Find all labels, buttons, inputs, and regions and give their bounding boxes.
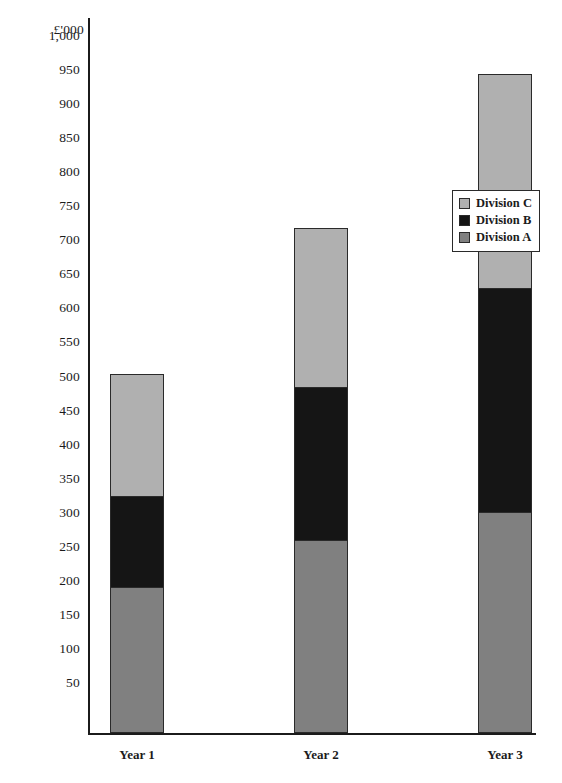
legend-swatch-icon [459, 215, 470, 226]
y-axis-tick-label: 200 [59, 573, 80, 589]
bar-group: Year 1 [110, 374, 164, 733]
legend-swatch-icon [459, 198, 470, 209]
y-axis-tick-label: 250 [59, 539, 80, 555]
bar-segment-division-a[interactable] [110, 587, 164, 733]
stacked-bar-chart: £'000 1,00095090085080075070065060055050… [0, 0, 562, 783]
y-axis-tick-label: 400 [59, 437, 80, 453]
y-axis-tick-label: 650 [59, 266, 80, 282]
chart-legend: Division CDivision BDivision A [452, 190, 540, 252]
bar-segment-division-a[interactable] [294, 540, 348, 733]
bar-segment-division-b[interactable] [478, 288, 532, 513]
y-axis-tick-label: 750 [59, 198, 80, 214]
bar-group: Year 3 [478, 74, 532, 733]
y-axis-tick-label: 300 [59, 505, 80, 521]
y-axis-tick-label: 600 [59, 300, 80, 316]
plot-area: 1,00095090085080075070065060055050045040… [88, 18, 536, 735]
y-axis-tick-label: 550 [59, 334, 80, 350]
bar-stack[interactable] [294, 228, 348, 733]
y-axis-tick-label: 900 [59, 96, 80, 112]
x-axis-tick-label: Year 1 [119, 747, 155, 763]
y-axis-tick-label: 50 [66, 675, 80, 691]
y-axis-tick-label: 700 [59, 232, 80, 248]
bar-group: Year 2 [294, 228, 348, 733]
x-axis-line [88, 733, 536, 735]
legend-swatch-icon [459, 232, 470, 243]
legend-label: Division C [476, 196, 532, 211]
y-axis-line [88, 18, 90, 735]
legend-item[interactable]: Division A [459, 229, 532, 246]
legend-label: Division B [476, 213, 531, 228]
legend-item[interactable]: Division B [459, 212, 532, 229]
x-axis-tick-label: Year 2 [303, 747, 339, 763]
y-axis-tick-label: 950 [59, 62, 80, 78]
bar-segment-division-c[interactable] [294, 228, 348, 388]
y-axis-tick-label: 450 [59, 403, 80, 419]
bar-segment-division-c[interactable] [110, 374, 164, 497]
y-axis-tick-label: 1,000 [49, 28, 80, 44]
bar-segment-division-a[interactable] [478, 512, 532, 733]
y-axis-tick-label: 500 [59, 369, 80, 385]
bar-stack[interactable] [110, 374, 164, 733]
y-axis-tick-label: 850 [59, 130, 80, 146]
y-axis-tick-label: 350 [59, 471, 80, 487]
legend-label: Division A [476, 230, 531, 245]
x-axis-tick-label: Year 3 [487, 747, 523, 763]
y-axis-tick-label: 100 [59, 641, 80, 657]
y-axis-tick-label: 150 [59, 607, 80, 623]
bar-stack[interactable] [478, 74, 532, 733]
bar-segment-division-c[interactable] [478, 74, 532, 289]
legend-item[interactable]: Division C [459, 195, 532, 212]
bar-segment-division-b[interactable] [294, 387, 348, 542]
y-axis-tick-label: 800 [59, 164, 80, 180]
bar-segment-division-b[interactable] [110, 496, 164, 588]
